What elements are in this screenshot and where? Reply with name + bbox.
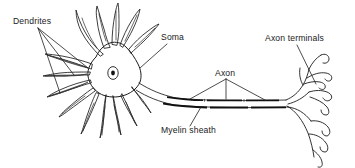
terminal-branch [310, 97, 329, 115]
neuron-diagram: Dendrites Soma Axon Myelin sheath Axon t… [0, 0, 355, 168]
dendrite-inner [126, 102, 135, 123]
terminal-branch [309, 91, 332, 101]
label-soma: Soma [161, 32, 184, 42]
dendrite-inner [82, 18, 97, 48]
leader-axon [190, 79, 226, 99]
terminal-branch [321, 54, 329, 63]
terminal-branch [304, 82, 325, 90]
dendrite-inner [135, 28, 155, 47]
label-myelin-sheath: Myelin sheath [161, 125, 216, 135]
terminal-branch [300, 68, 303, 85]
dendrite-shaded [49, 82, 88, 96]
dendrite [112, 3, 119, 45]
leader-dendrites [38, 28, 74, 75]
terminal-branch [309, 55, 321, 69]
dendrite [96, 6, 110, 48]
leader-axon [226, 79, 265, 100]
terminal-branch [311, 121, 330, 136]
leader-dendrites [38, 28, 88, 68]
dendrite-inner [125, 15, 137, 41]
label-dendrites: Dendrites [13, 16, 51, 26]
dendrite-inner [83, 103, 94, 131]
dendrite [113, 96, 121, 135]
dendrite [100, 95, 106, 138]
leader-dendrites [38, 28, 60, 93]
label-axon-terminals: Axon terminals [265, 33, 324, 43]
nucleus-core [111, 71, 115, 76]
terminal-trunk [288, 92, 309, 104]
label-axon: Axon [215, 68, 235, 78]
terminal-branch [309, 134, 328, 152]
axon-terminals-group [286, 54, 332, 167]
myelin-sheath-lower [163, 103, 286, 109]
leader-myelin-sheath [190, 107, 201, 126]
dendrite-inner [62, 96, 85, 114]
terminal-trunk [287, 106, 314, 157]
leader-soma [140, 44, 167, 68]
terminal-branch [313, 150, 322, 167]
axon-upper-wall [139, 83, 286, 101]
dendrite [132, 87, 151, 113]
neuron-illustration: Dendrites Soma Axon Myelin sheath Axon t… [0, 0, 355, 168]
